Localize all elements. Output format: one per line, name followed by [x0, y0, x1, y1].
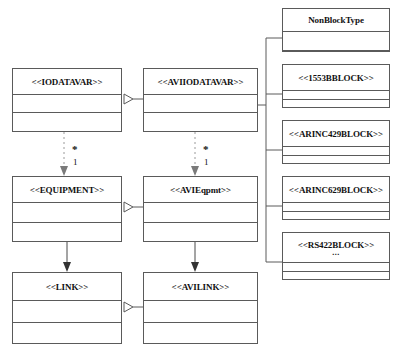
- generalization-avieqpmt-to-equipment: [124, 202, 143, 212]
- tree-connector-aviiodatavar-to-blocks: [258, 38, 282, 262]
- generalization-aviiodatavar-to-iodatavar: [124, 94, 143, 104]
- class-name-label: <<ARINC629BLOCK>>: [289, 185, 383, 195]
- class-attributes-compartment: [144, 301, 257, 323]
- class-box-arinc629block[interactable]: <<ARINC629BLOCK>>: [282, 176, 390, 220]
- class-name-label: <<1553BBLOCK>>: [298, 73, 374, 83]
- class-operations-compartment: [13, 223, 121, 241]
- class-box-avieqpmt[interactable]: <<AVIEqpmt>>: [143, 176, 258, 242]
- class-box-rs422block[interactable]: <<RS422BLOCK>> ...: [282, 232, 390, 280]
- class-operations-compartment: [144, 323, 257, 343]
- class-name-label: <<ARINC429BLOCK>>: [289, 129, 383, 139]
- association-equipment-to-link: [63, 242, 71, 272]
- class-name-compartment: <<AVIEqpmt>>: [144, 177, 257, 203]
- class-attributes-compartment: [13, 95, 121, 113]
- class-attributes-compartment: [283, 263, 389, 272]
- uml-class-diagram-canvas: <<IODATAVAR>> <<AVIIODATAVAR>> <<EQUIPME…: [0, 0, 403, 357]
- class-operations-compartment: [283, 100, 389, 107]
- class-attributes-compartment: [283, 147, 389, 156]
- class-name-label: <<AVIEqpmt>>: [170, 185, 231, 195]
- generalization-avilink-to-link: [124, 302, 143, 312]
- class-operations-compartment: [283, 156, 389, 163]
- class-operations-compartment: [283, 212, 389, 219]
- class-operations-compartment: [13, 113, 121, 131]
- class-operations-compartment: [144, 223, 257, 241]
- class-name-compartment: <<IODATAVAR>>: [13, 69, 121, 95]
- class-attributes-compartment: [283, 91, 389, 100]
- class-name-label: <<IODATAVAR>>: [31, 77, 102, 87]
- class-box-1553bblock[interactable]: <<1553BBLOCK>>: [282, 64, 390, 108]
- class-name-compartment: <<ARINC429BLOCK>>: [283, 121, 389, 147]
- class-operations-compartment: [13, 323, 121, 343]
- dependency-iodatavar-to-equipment: [60, 132, 68, 176]
- class-name-sub: ...: [332, 250, 340, 256]
- class-box-link[interactable]: <<LINK>>: [12, 272, 122, 344]
- class-attributes-compartment: [283, 32, 389, 51]
- dependency-aviiodatavar-to-avieqpmt: [191, 132, 199, 176]
- multiplicity-label-target-left: 1: [73, 158, 78, 167]
- class-attributes-compartment: [13, 301, 121, 323]
- class-attributes-compartment: [283, 203, 389, 212]
- class-box-equipment[interactable]: <<EQUIPMENT>>: [12, 176, 122, 242]
- class-box-iodatavar[interactable]: <<IODATAVAR>>: [12, 68, 122, 132]
- class-attributes-compartment: [13, 203, 121, 223]
- class-name-compartment: NonBlockType: [283, 9, 389, 32]
- association-avieqpmt-to-avilink: [191, 242, 199, 272]
- class-operations-compartment: [144, 113, 257, 131]
- class-name-compartment: <<AVILINK>>: [144, 273, 257, 301]
- class-attributes-compartment: [144, 95, 257, 113]
- class-name-label: <<LINK>>: [46, 282, 89, 292]
- class-box-arinc429block[interactable]: <<ARINC429BLOCK>>: [282, 120, 390, 164]
- class-name-label: <<AVIIODATAVAR>>: [157, 77, 243, 87]
- multiplicity-label-source-middle: *: [203, 145, 209, 154]
- class-box-aviiodatavar[interactable]: <<AVIIODATAVAR>>: [143, 68, 258, 132]
- multiplicity-label-source-left: *: [72, 145, 78, 154]
- class-name-compartment: <<ARINC629BLOCK>>: [283, 177, 389, 203]
- class-name-label: <<EQUIPMENT>>: [30, 185, 105, 195]
- class-box-avilink[interactable]: <<AVILINK>>: [143, 272, 258, 344]
- multiplicity-label-target-middle: 1: [204, 158, 209, 167]
- class-operations-compartment: [283, 272, 389, 279]
- class-name-compartment: <<AVIIODATAVAR>>: [144, 69, 257, 95]
- class-name-label: NonBlockType: [308, 15, 364, 25]
- class-attributes-compartment: [144, 203, 257, 223]
- class-name-compartment: <<EQUIPMENT>>: [13, 177, 121, 203]
- class-name-compartment: <<RS422BLOCK>> ...: [283, 233, 389, 263]
- class-name-label: <<AVILINK>>: [172, 282, 230, 292]
- class-box-nonblocktype[interactable]: NonBlockType: [282, 8, 390, 52]
- class-name-compartment: <<1553BBLOCK>>: [283, 65, 389, 91]
- class-name-compartment: <<LINK>>: [13, 273, 121, 301]
